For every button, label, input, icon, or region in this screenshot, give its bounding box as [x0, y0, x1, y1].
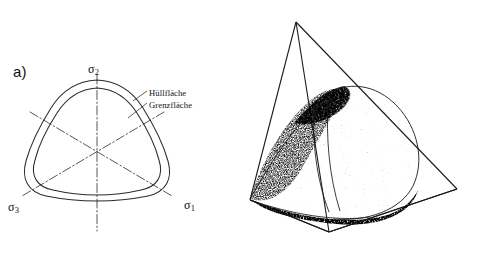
panel-b-drawing: [236, 0, 479, 270]
panel-a: a) Hüllfläche Grenzfläche σ2: [0, 0, 236, 270]
panel-a-drawing: [0, 0, 236, 270]
figure-root: a) Hüllfläche Grenzfläche σ2: [0, 0, 479, 270]
curve-label-grenzflaeche: Grenzfläche: [149, 100, 192, 110]
panel-b: b): [236, 0, 479, 270]
sigma-subscript: 1: [190, 203, 195, 213]
panel-a-axis-label-sigma-1: σ1: [184, 198, 195, 213]
axis-line-sigma-3: [22, 112, 164, 196]
leader-line-huellflaeche: [133, 91, 147, 101]
panel-a-axis-lines: [22, 75, 172, 231]
sigma-subscript: 3: [14, 205, 19, 215]
axis-line-sigma-1: [30, 112, 172, 196]
panel-a-axis-label-sigma-3: σ3: [8, 200, 19, 215]
stippled-yield-surface: [236, 60, 479, 260]
panel-a-axis-label-sigma-2: σ2: [88, 62, 99, 77]
sigma-subscript: 2: [94, 67, 99, 77]
curve-label-huellflaeche: Hüllfläche: [149, 88, 186, 98]
